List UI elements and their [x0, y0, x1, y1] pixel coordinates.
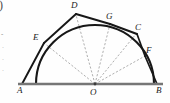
polygon-edge-a-e [22, 43, 44, 84]
vertex-label-f: F [146, 46, 152, 55]
vertex-label-e: E [33, 33, 39, 42]
polygon-edge-e-d [44, 14, 76, 43]
polygon-edge-f-b [145, 56, 157, 84]
vertex-label-a: A [17, 86, 23, 95]
vertex-label-d: D [71, 1, 78, 10]
margin-artifact-dot-2: · [2, 57, 4, 63]
margin-artifact-paren: ) [0, 0, 3, 13]
vertex-label-g: G [106, 12, 113, 21]
margin-artifact-dash: - [1, 30, 3, 38]
radius-o-to-f [95, 56, 145, 84]
geometry-canvas [0, 0, 170, 103]
vertex-label-o: O [90, 88, 97, 97]
radius-o-to-g [95, 24, 110, 84]
margin-artifact-dot-3: · [2, 68, 4, 74]
vertex-label-c: C [135, 23, 141, 32]
margin-artifact-dot-1: · [2, 45, 4, 51]
geometry-figure: A E D G C F B O ) - · · · [0, 0, 170, 103]
polygon-edge-d-g [76, 14, 110, 24]
center-point-marker [94, 83, 97, 86]
vertex-label-b: B [156, 86, 162, 95]
radius-o-to-e [44, 43, 95, 84]
